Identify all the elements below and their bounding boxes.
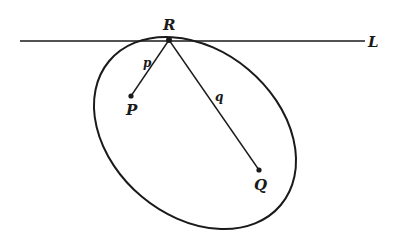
label-Q: Q (254, 176, 267, 194)
point-Q (256, 167, 261, 172)
label-p: p (143, 56, 152, 70)
ellipse (56, 0, 334, 234)
point-R (166, 37, 172, 43)
label-R: R (162, 16, 175, 34)
diagram-canvas: R P Q L p q (0, 0, 399, 234)
label-L: L (367, 33, 379, 51)
label-q: q (215, 90, 223, 104)
diagram-svg: R P Q L p q (0, 0, 399, 234)
segment-q (169, 40, 259, 170)
point-P (128, 93, 133, 98)
label-P: P (125, 101, 138, 119)
